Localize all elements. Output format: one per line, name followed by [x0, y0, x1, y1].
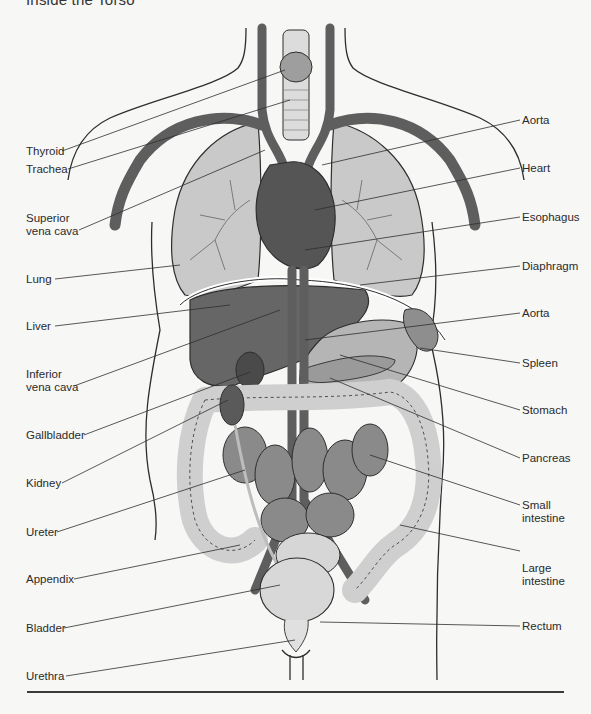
label-rectum: Rectum [522, 620, 562, 633]
label-superior-vena-cava: Superior vena cava [26, 212, 78, 238]
label-esophagus: Esophagus [522, 211, 580, 224]
label-aorta-lower: Aorta [522, 307, 550, 320]
label-ureter: Ureter [26, 526, 58, 539]
label-stomach: Stomach [522, 404, 567, 417]
bladder [260, 558, 334, 622]
label-large-intestine: Large intestine [522, 562, 565, 588]
label-gallbladder: Gallbladder [26, 429, 85, 442]
label-bladder: Bladder [26, 622, 66, 635]
gallbladder [236, 352, 264, 388]
label-heart: Heart [522, 162, 550, 175]
trachea-thyroid [280, 30, 312, 140]
label-trachea: Trachea [26, 163, 68, 176]
label-diaphragm: Diaphragm [522, 260, 578, 273]
urethra [284, 620, 308, 652]
torso-anatomy-illustration [0, 0, 591, 714]
label-inferior-vena-cava: Inferior vena cava [26, 368, 78, 394]
label-small-intestine: Small intestine [522, 499, 565, 525]
label-pancreas: Pancreas [522, 452, 571, 465]
label-liver: Liver [26, 320, 51, 333]
label-thyroid: Thyroid [26, 145, 64, 158]
label-urethra: Urethra [26, 670, 64, 683]
label-lung: Lung [26, 273, 52, 286]
bottom-divider [27, 691, 564, 693]
label-kidney: Kidney [26, 477, 61, 490]
label-aorta-upper: Aorta [522, 114, 550, 127]
heart [256, 162, 335, 269]
label-appendix: Appendix [26, 573, 74, 586]
label-spleen: Spleen [522, 357, 558, 370]
kidney [220, 385, 244, 425]
